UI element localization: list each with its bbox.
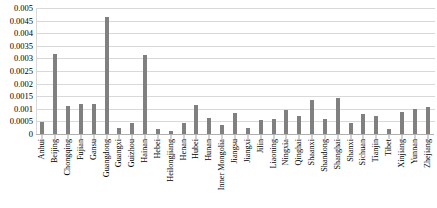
y-tick-label: 0: [29, 130, 33, 139]
x-tick-label: Liaoning: [269, 139, 277, 169]
bar: [246, 128, 250, 134]
y-tick-label: 0.0015: [10, 92, 33, 101]
x-tick-label: Shaanxi: [308, 139, 316, 165]
bar-slot: [87, 8, 100, 134]
y-tick-label: 0.0025: [10, 67, 33, 76]
x-tick-label: Hebei: [154, 139, 162, 159]
bar: [92, 104, 96, 134]
bar-slot: [267, 8, 280, 134]
bar: [66, 106, 70, 134]
bar-slot: [100, 8, 113, 134]
bar-slot: [49, 8, 62, 134]
bar: [259, 120, 263, 134]
bar-slot: [164, 8, 177, 134]
x-tick-label: Fujian: [77, 139, 85, 160]
bar: [233, 113, 237, 134]
bar: [40, 122, 44, 134]
bar-slot: [318, 8, 331, 134]
y-tick-label: 0.001: [14, 105, 33, 114]
x-tick-label: Guangdong: [103, 139, 111, 177]
bar-slot: [241, 8, 254, 134]
bar-slot: [344, 8, 357, 134]
bar: [207, 118, 211, 134]
x-tick-label: Chongqing: [64, 139, 72, 175]
x-tick-label: Qinghai: [295, 139, 303, 165]
bar-slot: [331, 8, 344, 134]
bar: [53, 54, 57, 134]
y-axis: 00.00050.0010.00150.0020.00250.0030.0035…: [0, 0, 36, 140]
x-tick-label: Tianjin: [372, 139, 380, 162]
bar: [374, 116, 378, 134]
bars-layer: [36, 8, 434, 134]
x-tick-label: Henan: [180, 139, 188, 160]
bar-slot: [203, 8, 216, 134]
bar-slot: [177, 8, 190, 134]
x-tick-label: Zhejiang: [423, 139, 431, 168]
bar-slot: [216, 8, 229, 134]
bar-slot: [254, 8, 267, 134]
bar-slot: [293, 8, 306, 134]
bar: [79, 104, 83, 134]
bar: [349, 123, 353, 134]
x-tick-label: Yunnan: [411, 139, 419, 164]
x-tick-label: Xinjiang: [398, 139, 406, 168]
x-tick-label: Hainan: [141, 139, 149, 163]
x-tick-label: Heilongjiang: [167, 139, 175, 182]
x-tick-label: Guangxi: [115, 139, 123, 167]
y-tick-label: 0.004: [14, 29, 33, 38]
bar: [105, 17, 109, 134]
bar: [387, 129, 391, 134]
bar-slot: [152, 8, 165, 134]
x-tick-label: Shanghai: [334, 139, 342, 169]
x-tick-label: Jiangxi: [244, 139, 252, 163]
bar: [130, 123, 134, 134]
y-tick-label: 0.003: [14, 54, 33, 63]
bar-slot: [280, 8, 293, 134]
bar-chart: 00.00050.0010.00150.0020.00250.0030.0035…: [0, 0, 437, 208]
bar-slot: [229, 8, 242, 134]
y-tick-label: 0.005: [14, 4, 33, 13]
bar-slot: [383, 8, 396, 134]
x-tick-label: Guizhou: [128, 139, 136, 167]
x-tick-label: Shandong: [321, 139, 329, 172]
bar: [272, 119, 276, 134]
x-tick-label: Jiangsu: [231, 139, 239, 164]
bar: [400, 112, 404, 134]
bar: [220, 125, 224, 134]
x-tick-label: Ningxia: [282, 139, 290, 165]
x-tick-label: Jilin: [257, 139, 265, 153]
bar-slot: [139, 8, 152, 134]
x-tick-label: Shanxi: [346, 139, 354, 162]
bar-slot: [126, 8, 139, 134]
x-tick-label: Hunan: [205, 139, 213, 161]
x-tick-label: Hubei: [192, 139, 200, 159]
x-tick-label: Inner Mongolia: [218, 139, 226, 190]
bar: [182, 123, 186, 134]
bar: [156, 129, 160, 134]
bar: [426, 107, 430, 134]
bar: [323, 119, 327, 134]
bar: [297, 116, 301, 134]
bar-slot: [75, 8, 88, 134]
bar: [143, 55, 147, 134]
bar-slot: [421, 8, 434, 134]
bar-slot: [113, 8, 126, 134]
y-tick-label: 0.0035: [10, 42, 33, 51]
y-tick-label: 0.0045: [10, 16, 33, 25]
bar-slot: [190, 8, 203, 134]
bar: [413, 109, 417, 134]
x-tick-label: Sichuan: [359, 139, 367, 165]
bar: [361, 114, 365, 134]
bar: [336, 98, 340, 134]
x-tick-label: Beijing: [51, 139, 59, 163]
bar-slot: [306, 8, 319, 134]
x-tick-label: Tibet: [385, 139, 393, 156]
bar: [169, 131, 173, 134]
y-tick-label: 0.002: [14, 79, 33, 88]
x-axis-labels: AnhuiBeijingChongqingFujianGansuGuangdon…: [36, 139, 434, 208]
y-tick-label: 0.0005: [10, 117, 33, 126]
bar-slot: [36, 8, 49, 134]
x-tick-label: Gansu: [90, 139, 98, 160]
bar-slot: [357, 8, 370, 134]
bar-slot: [408, 8, 421, 134]
